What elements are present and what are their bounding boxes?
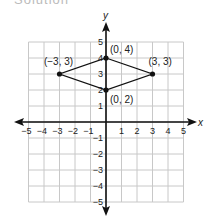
point-label: (−3, 3) xyxy=(44,56,73,67)
axes: xy xyxy=(14,10,204,216)
x-tick-label: 2 xyxy=(134,126,139,136)
y-axis-label: y xyxy=(102,10,109,21)
y-tick-label: 3 xyxy=(98,69,103,79)
point-label: (0, 2) xyxy=(110,94,133,105)
x-tick-label: −5 xyxy=(21,126,31,136)
point-label: (3, 3) xyxy=(149,56,172,67)
x-tick-label: −4 xyxy=(37,126,47,136)
y-tick-label: −3 xyxy=(93,165,103,175)
x-tick-label: 4 xyxy=(165,126,170,136)
x-tick-label: −3 xyxy=(52,126,62,136)
data-point xyxy=(150,71,155,76)
data-point xyxy=(103,87,108,92)
y-tick-label: −4 xyxy=(93,181,103,191)
data-point xyxy=(57,71,62,76)
y-tick-label: −5 xyxy=(93,197,103,207)
x-tick-label: −2 xyxy=(68,126,78,136)
x-tick-label: 5 xyxy=(181,126,186,136)
x-axis-label: x xyxy=(197,117,204,128)
x-tick-label: 1 xyxy=(119,126,124,136)
y-tick-label: −1 xyxy=(93,133,103,143)
y-tick-label: 2 xyxy=(98,85,103,95)
point-label: (0, 4) xyxy=(110,44,133,55)
x-tick-label: 3 xyxy=(150,126,155,136)
y-tick-label: −2 xyxy=(93,149,103,159)
y-tick-label: 1 xyxy=(98,101,103,111)
y-tick-label: 5 xyxy=(98,37,103,47)
y-tick-label: 4 xyxy=(98,53,103,63)
coordinate-plane: xy −5−4−3−2−11234554321−1−2−3−4−5 (0, 4)… xyxy=(0,0,215,220)
data-point xyxy=(103,55,108,60)
